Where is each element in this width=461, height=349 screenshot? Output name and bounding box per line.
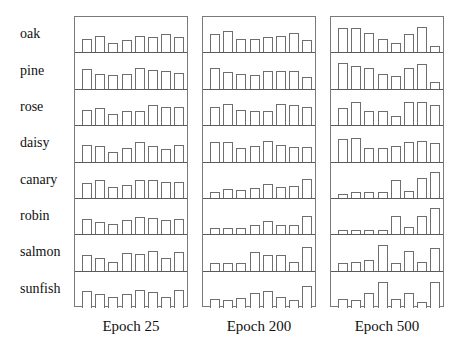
bar xyxy=(108,187,118,198)
bar xyxy=(302,286,312,308)
bar xyxy=(108,75,118,89)
bar xyxy=(289,300,299,308)
bar xyxy=(302,40,312,52)
bar xyxy=(95,108,105,126)
bar xyxy=(263,184,273,198)
bar xyxy=(378,148,388,162)
bar xyxy=(161,34,171,52)
bar xyxy=(95,146,105,162)
bar xyxy=(236,263,246,271)
bar xyxy=(82,110,92,125)
bar xyxy=(236,39,246,53)
bar xyxy=(250,146,260,161)
bar xyxy=(108,297,118,308)
bar xyxy=(378,39,388,53)
bar xyxy=(338,230,348,235)
bar xyxy=(302,247,312,271)
bar xyxy=(108,152,118,162)
bar xyxy=(250,75,260,89)
bar xyxy=(174,182,184,198)
bar xyxy=(351,262,361,271)
cell-sunfish xyxy=(75,272,187,308)
bar xyxy=(276,145,286,162)
cell-sunfish xyxy=(331,272,443,308)
bar xyxy=(95,180,105,198)
bar xyxy=(122,253,132,270)
bar xyxy=(351,300,361,308)
bar xyxy=(148,218,158,235)
bar xyxy=(223,300,233,309)
bar xyxy=(404,293,414,308)
bar xyxy=(404,102,414,125)
bar xyxy=(364,148,374,162)
bar xyxy=(236,190,246,198)
bar xyxy=(302,179,312,198)
bar xyxy=(210,192,220,198)
cell-salmon xyxy=(331,235,443,271)
bar xyxy=(417,262,427,271)
cell-robin xyxy=(75,199,187,235)
bar xyxy=(391,180,401,198)
bar xyxy=(250,188,260,198)
bar xyxy=(236,298,246,308)
bar xyxy=(210,228,220,234)
bar xyxy=(263,291,273,308)
bar xyxy=(404,191,414,198)
cell-canary xyxy=(75,163,187,199)
bar xyxy=(276,297,286,308)
column-label-epoch-25: Epoch 25 xyxy=(74,318,188,335)
bar xyxy=(417,178,427,198)
bar xyxy=(236,74,246,89)
bar xyxy=(391,216,401,234)
cell-rose xyxy=(203,90,315,126)
bar xyxy=(404,34,414,52)
bar xyxy=(289,262,299,271)
bar xyxy=(404,227,414,235)
row-label-rose: rose xyxy=(20,99,43,115)
bar xyxy=(223,142,233,162)
bar xyxy=(236,228,246,235)
bar xyxy=(263,141,273,162)
bar xyxy=(378,111,388,125)
bar xyxy=(378,74,388,89)
bar xyxy=(250,111,260,125)
bar xyxy=(289,71,299,89)
cell-canary xyxy=(331,163,443,199)
cell-oak xyxy=(203,17,315,53)
bar xyxy=(302,216,312,234)
cell-oak xyxy=(75,17,187,53)
bar xyxy=(135,111,145,126)
bar xyxy=(417,64,427,88)
bar xyxy=(135,180,145,198)
panel-epoch-25 xyxy=(74,16,188,307)
panel-epoch-200 xyxy=(202,16,316,307)
bar xyxy=(364,230,374,235)
bar xyxy=(391,116,401,125)
bar xyxy=(338,194,348,198)
bar xyxy=(289,105,299,125)
bar xyxy=(263,255,273,270)
bar xyxy=(161,107,171,125)
bar xyxy=(338,263,348,271)
bar xyxy=(391,43,401,52)
bar xyxy=(95,36,105,53)
cell-pine xyxy=(331,53,443,89)
bar xyxy=(351,192,361,197)
bar xyxy=(404,251,414,271)
bar xyxy=(250,39,260,53)
bar xyxy=(289,225,299,234)
bar xyxy=(391,146,401,162)
bar xyxy=(364,192,374,198)
bar xyxy=(135,254,145,271)
bar xyxy=(250,252,260,270)
bar xyxy=(378,245,388,271)
bar xyxy=(289,186,299,198)
bar xyxy=(210,142,220,162)
cell-oak xyxy=(331,17,443,53)
cell-sunfish xyxy=(203,272,315,308)
bar xyxy=(135,290,145,308)
bar xyxy=(210,107,220,125)
bar xyxy=(364,33,374,53)
bar xyxy=(417,27,427,52)
bar xyxy=(210,299,220,308)
